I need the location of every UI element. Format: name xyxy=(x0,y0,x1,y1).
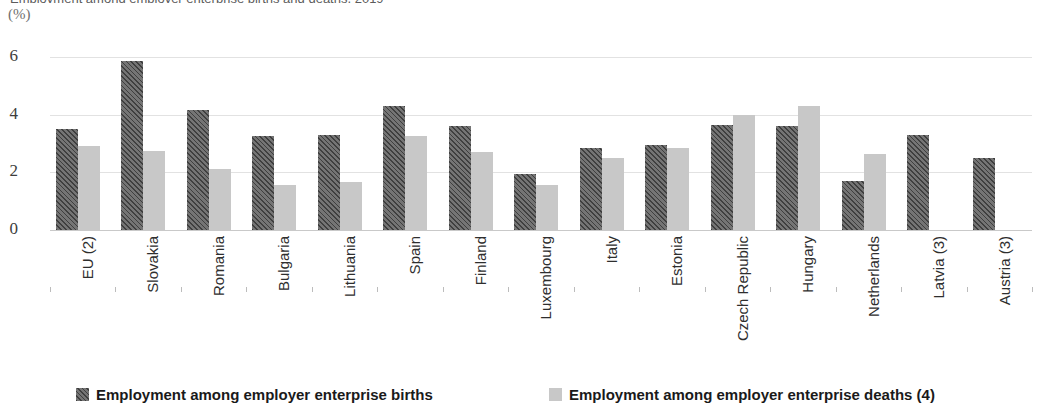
legend-item-births[interactable]: Employment among employer enterprise bir… xyxy=(76,386,433,403)
bar-deaths[interactable] xyxy=(798,106,820,230)
bar-group xyxy=(508,57,573,230)
x-axis-label: Finland xyxy=(472,236,489,285)
bar-births[interactable] xyxy=(318,135,340,230)
x-axis-label: Romania xyxy=(210,236,227,296)
y-axis-unit-label: (%) xyxy=(8,6,31,23)
y-tick-label-2: 2 xyxy=(0,161,18,181)
bar-births[interactable] xyxy=(645,145,667,230)
bar-group xyxy=(901,57,966,230)
bar-group xyxy=(705,57,770,230)
y-tick-label-0: 0 xyxy=(0,219,18,239)
chart-plot-area: 0246 xyxy=(50,57,1032,230)
bar-group xyxy=(574,57,639,230)
bar-births[interactable] xyxy=(842,181,864,230)
bar-births[interactable] xyxy=(187,110,209,230)
bar-group xyxy=(312,57,377,230)
bar-deaths[interactable] xyxy=(667,148,689,230)
x-axis-label: Lithuania xyxy=(341,236,358,297)
x-axis-label: Netherlands xyxy=(865,236,882,317)
bar-group xyxy=(115,57,180,230)
bar-births[interactable] xyxy=(514,174,536,230)
bar-group xyxy=(246,57,311,230)
bar-group xyxy=(967,57,1032,230)
bar-deaths[interactable] xyxy=(405,136,427,230)
legend-label-deaths: Employment among employer enterprise dea… xyxy=(569,386,935,403)
legend-label-births: Employment among employer enterprise bir… xyxy=(96,386,433,403)
x-axis-label: Luxembourg xyxy=(537,236,554,319)
legend-swatch-births-icon xyxy=(76,388,89,401)
bar-births[interactable] xyxy=(907,135,929,230)
bar-group xyxy=(639,57,704,230)
y-tick-label-4: 4 xyxy=(0,104,18,124)
bar-births[interactable] xyxy=(973,158,995,230)
x-axis-label: Italy xyxy=(603,236,620,264)
bar-deaths[interactable] xyxy=(340,182,362,230)
x-axis-label: Bulgaria xyxy=(275,236,292,291)
bar-deaths[interactable] xyxy=(536,185,558,230)
legend-swatch-deaths-icon xyxy=(549,388,562,401)
x-axis-label: Slovakia xyxy=(144,236,161,293)
bar-group xyxy=(377,57,442,230)
x-axis-label: Latvia (3) xyxy=(930,236,947,299)
bar-deaths[interactable] xyxy=(602,158,624,230)
cut-off-title: Employment among employer enterprise bir… xyxy=(10,0,710,3)
x-axis-label: Austria (3) xyxy=(996,236,1013,305)
x-axis-label: Hungary xyxy=(799,236,816,293)
y-tick-label-6: 6 xyxy=(0,46,18,66)
bar-group xyxy=(50,57,115,230)
x-axis-category-labels: EU (2)SlovakiaRomaniaBulgariaLithuaniaSp… xyxy=(50,236,1032,366)
legend-item-deaths[interactable]: Employment among employer enterprise dea… xyxy=(549,386,935,403)
bar-group xyxy=(181,57,246,230)
bar-group xyxy=(443,57,508,230)
bar-births[interactable] xyxy=(383,106,405,230)
bar-groups xyxy=(50,57,1032,230)
bar-births[interactable] xyxy=(776,126,798,230)
bar-deaths[interactable] xyxy=(733,115,755,230)
x-axis-label: Spain xyxy=(406,236,423,274)
bar-deaths[interactable] xyxy=(471,152,493,230)
bar-group xyxy=(770,57,835,230)
bar-deaths[interactable] xyxy=(143,151,165,230)
bar-births[interactable] xyxy=(449,126,471,230)
bar-births[interactable] xyxy=(121,61,143,230)
bar-births[interactable] xyxy=(56,129,78,230)
x-axis-label: Czech Republic xyxy=(734,236,751,341)
bar-group xyxy=(836,57,901,230)
x-axis-label: EU (2) xyxy=(79,236,96,279)
chart-legend: Employment among employer enterprise bir… xyxy=(0,386,1046,411)
bar-deaths[interactable] xyxy=(78,146,100,230)
bar-deaths[interactable] xyxy=(864,154,886,230)
bar-deaths[interactable] xyxy=(209,169,231,230)
bar-deaths[interactable] xyxy=(274,185,296,230)
bar-births[interactable] xyxy=(252,136,274,230)
x-axis-label: Estonia xyxy=(668,236,685,286)
x-tick-mark xyxy=(1032,287,1033,292)
bar-births[interactable] xyxy=(711,125,733,230)
gridline-0 xyxy=(50,230,1032,231)
bar-births[interactable] xyxy=(580,148,602,230)
